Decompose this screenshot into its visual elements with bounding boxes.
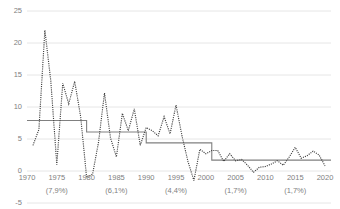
annual-value-line (33, 30, 325, 180)
x-tick-label: 2020 (310, 174, 340, 182)
x-tick-label: 2005 (221, 174, 251, 182)
y-tick-label: -5 (0, 199, 22, 207)
x-tick-label: 1980 (72, 174, 102, 182)
period-average-step-line (27, 120, 331, 160)
x-tick-label: 2015 (280, 174, 310, 182)
x-tick-label: 1970 (12, 174, 42, 182)
y-tick-label: 10 (0, 103, 22, 111)
x-tick-label: 1990 (131, 174, 161, 182)
x-tick-label: 1975 (42, 174, 72, 182)
step-polyline (27, 120, 331, 160)
x-tick-label: 1985 (101, 174, 131, 182)
x-annotation-label: (6,1%) (96, 187, 136, 195)
x-annotation-label: (1,7%) (275, 187, 315, 195)
y-tick-label: 15 (0, 71, 22, 79)
y-tick-label: 25 (0, 7, 22, 15)
x-annotation-label: (4,4%) (156, 187, 196, 195)
x-annotation-label: (7,9%) (37, 187, 77, 195)
chart-container: 2520151050-5 197019751980198519901995200… (0, 0, 340, 209)
x-tick-label: 2000 (191, 174, 221, 182)
y-tick-label: 20 (0, 39, 22, 47)
y-tick-label: 5 (0, 135, 22, 143)
x-tick-label: 1995 (161, 174, 191, 182)
x-annotation-label: (1,7%) (216, 187, 256, 195)
x-tick-label: 2010 (250, 174, 280, 182)
series-polyline (33, 30, 325, 180)
